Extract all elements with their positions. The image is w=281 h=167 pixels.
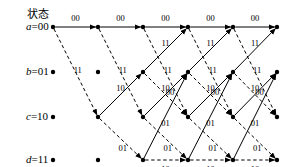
trellis-node <box>141 158 145 162</box>
edge-output-label: 10 <box>161 164 170 167</box>
edge-output-label: 00 <box>206 13 215 23</box>
trellis-node <box>51 115 55 119</box>
edge-output-label: 11 <box>253 65 261 75</box>
trellis-node <box>231 70 235 74</box>
trellis-edge-solid <box>100 74 142 116</box>
trellis-node <box>51 70 55 74</box>
trellis-node <box>186 70 190 74</box>
edge-output-label: 00 <box>116 13 125 23</box>
trellis-node <box>186 25 190 29</box>
trellis-node <box>231 25 235 29</box>
trellis-node <box>186 115 190 119</box>
trellis-node <box>275 115 279 119</box>
trellis-node <box>96 115 100 119</box>
trellis-node <box>96 70 100 74</box>
edge-output-label: 10 <box>116 83 125 93</box>
trellis-node <box>141 70 145 74</box>
edge-output-label: 11 <box>164 65 172 75</box>
edge-output-label: 00 <box>161 13 170 23</box>
trellis-node <box>51 25 55 29</box>
trellis-node <box>231 158 235 162</box>
edge-output-label: 01 <box>164 143 173 153</box>
edge-output-label: 00 <box>251 13 260 23</box>
trellis-node <box>96 25 100 29</box>
trellis-node <box>186 158 190 162</box>
edge-output-label: 11 <box>161 38 169 48</box>
trellis-node <box>275 158 279 162</box>
edge-output-label: 11 <box>206 38 214 48</box>
trellis-node <box>141 25 145 29</box>
trellis-node <box>275 70 279 74</box>
edge-output-label: 10 <box>161 83 170 93</box>
trellis-node <box>275 25 279 29</box>
edge-output-label: 01 <box>251 118 260 128</box>
edge-output-label: 10 <box>251 83 260 93</box>
edge-output-label: 10 <box>251 164 260 167</box>
trellis-node <box>96 158 100 162</box>
edge-output-label: 01 <box>161 118 170 128</box>
edge-output-label: 01 <box>209 143 218 153</box>
edge-output-label: 11 <box>74 65 82 75</box>
edge-output-label: 11 <box>209 65 217 75</box>
trellis-node <box>51 158 55 162</box>
edge-output-label: 01 <box>253 143 262 153</box>
edge-output-label: 11 <box>119 65 127 75</box>
edge-output-label: 11 <box>251 38 259 48</box>
edge-output-label: 01 <box>206 118 215 128</box>
trellis-diagram: 状态 a=00 b=01 c=10 d=11 00110011100100111… <box>0 0 281 167</box>
trellis-node <box>141 115 145 119</box>
trellis-canvas <box>0 0 281 167</box>
edge-output-label: 10 <box>206 83 215 93</box>
edge-output-label: 01 <box>119 143 128 153</box>
trellis-node <box>231 115 235 119</box>
edge-output-label: 10 <box>206 164 215 167</box>
edge-output-label: 00 <box>71 13 80 23</box>
